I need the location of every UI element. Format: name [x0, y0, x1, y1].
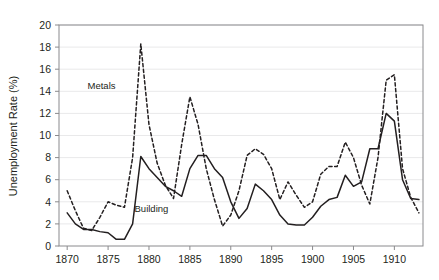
y-axis-title: Unemployment Rate (%) [7, 76, 19, 196]
y-tick-label-12: 12 [39, 107, 51, 119]
y-tick-label-18: 18 [39, 41, 51, 53]
y-tick-label-14: 14 [39, 85, 51, 97]
chart-container: 02468101214161820 1870187518801885189018… [0, 0, 439, 280]
y-tick-label-8: 8 [45, 151, 51, 163]
x-tick-label-1905: 1905 [342, 253, 366, 265]
y-tick-label-2: 2 [45, 218, 51, 230]
series-label-building: Building [135, 203, 169, 214]
y-tick-label-10: 10 [39, 129, 51, 141]
x-tick-label-1895: 1895 [260, 253, 284, 265]
y-tick-label-16: 16 [39, 63, 51, 75]
x-tick-label-1900: 1900 [301, 253, 325, 265]
chart-background [0, 0, 439, 280]
x-tick-label-1870: 1870 [56, 253, 80, 265]
unemployment-rate-line-chart: 02468101214161820 1870187518801885189018… [0, 0, 439, 280]
x-tick-label-1875: 1875 [96, 253, 120, 265]
y-tick-label-0: 0 [45, 240, 51, 252]
y-tick-label-6: 6 [45, 173, 51, 185]
y-tick-label-4: 4 [45, 196, 51, 208]
series-label-metals: Metals [88, 80, 116, 91]
x-tick-label-1885: 1885 [178, 253, 202, 265]
x-tick-label-1890: 1890 [219, 253, 243, 265]
x-axis-ticks: 187018751880188518901895190019051910 [56, 246, 407, 265]
x-tick-label-1880: 1880 [137, 253, 161, 265]
y-tick-label-20: 20 [39, 19, 51, 31]
x-tick-label-1910: 1910 [383, 253, 407, 265]
